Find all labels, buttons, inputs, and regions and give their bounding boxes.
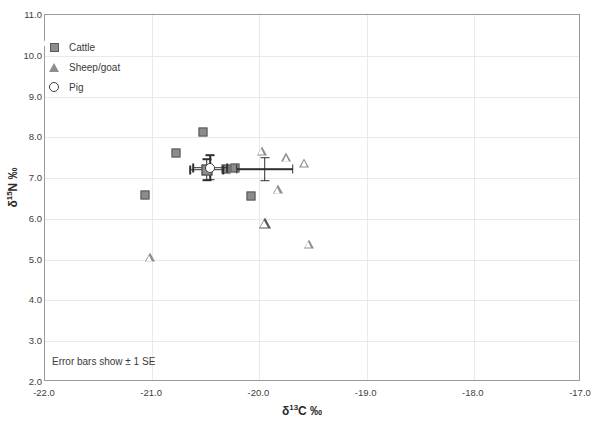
pig-errorbar-cap <box>206 179 215 181</box>
y-axis-tick-label: 2.0 <box>2 376 42 387</box>
open-circle-icon <box>46 82 62 92</box>
gridline-vertical <box>259 15 260 380</box>
filled-square-glyph <box>50 43 59 52</box>
legend-item-label: Pig <box>69 82 83 93</box>
gridline-vertical <box>474 15 475 380</box>
data-point-square <box>171 148 180 157</box>
sheep-goat-errorbar-cap <box>236 165 238 174</box>
gridline-vertical <box>367 15 368 380</box>
data-point-square <box>140 191 149 200</box>
legend-item-sheep-goat[interactable]: Sheep/goat <box>46 57 120 77</box>
x-axis-tick-label: -20.0 <box>248 387 270 398</box>
legend-item-pig[interactable]: Pig <box>46 77 120 97</box>
y-axis-tick-label: 5.0 <box>2 253 42 264</box>
data-point-triangle <box>299 158 309 167</box>
legend-item-label: Sheep/goat <box>69 62 120 73</box>
data-point-square <box>198 128 207 137</box>
x-axis-tick-label: -18.0 <box>462 387 484 398</box>
gridline-horizontal <box>45 97 579 98</box>
y-axis-tick-label: 8.0 <box>2 131 42 142</box>
gridline-horizontal <box>45 341 579 342</box>
y-axis-title: δ15N ‰ <box>5 143 20 233</box>
legend-item-label: Cattle <box>69 42 95 53</box>
y-axis-tick-label: 4.0 <box>2 294 42 305</box>
data-point-triangle <box>145 253 155 262</box>
data-point-square <box>246 191 255 200</box>
gridline-vertical <box>152 15 153 380</box>
x-axis-title: δ13C ‰ <box>0 403 604 418</box>
y-axis-element: N ‰ <box>6 167 20 191</box>
data-point-triangle <box>281 153 291 162</box>
scatter-chart: 2.03.04.05.06.07.08.09.010.011.0 -22.0-2… <box>0 0 604 429</box>
y-axis-tick-label: 10.0 <box>2 49 42 60</box>
y-axis-tick-label: 3.0 <box>2 335 42 346</box>
sheep-goat-errorbar-cap <box>260 180 269 182</box>
sheep-goat-errorbar-cap <box>292 165 294 174</box>
gridline-horizontal <box>45 56 579 57</box>
data-point-triangle <box>273 185 283 194</box>
x-axis-tick-label: -19.0 <box>355 387 377 398</box>
data-point-triangle <box>257 146 267 155</box>
x-axis-tick-label: -21.0 <box>140 387 162 398</box>
gridline-horizontal <box>45 178 579 179</box>
y-axis-delta: δ <box>6 200 20 207</box>
open-triangle-icon <box>46 63 62 72</box>
x-axis-superscript: 13 <box>289 403 298 412</box>
error-bars-layer <box>45 69 579 80</box>
sheep-goat-errorbar-cap <box>260 157 269 159</box>
pig-errorbar-cap <box>226 163 228 172</box>
pig-errorbar-cap <box>206 154 215 156</box>
x-axis-tick-label: -22.0 <box>33 387 55 398</box>
pig-errorbar-cap <box>192 163 194 172</box>
legend: CattleSheep/goatPig <box>46 37 120 97</box>
x-axis-tick-label: -17.0 <box>569 387 591 398</box>
open-circle-glyph <box>49 82 59 92</box>
gridline-horizontal <box>45 260 579 261</box>
gridline-horizontal <box>45 219 579 220</box>
cattle-errorbar-cap <box>189 165 191 174</box>
gridline-horizontal <box>45 300 579 301</box>
mean-marker-circle <box>205 163 215 173</box>
data-markers-layer <box>45 15 579 69</box>
open-triangle-glyph <box>49 63 59 72</box>
gridline-horizontal <box>45 137 579 138</box>
y-axis-tick-label: 11.0 <box>2 9 42 20</box>
x-axis-element: C ‰ <box>298 404 322 418</box>
x-axis-tick-labels: -22.0-21.0-20.0-19.0-18.0-17.0 <box>0 387 604 403</box>
error-bar-annotation: Error bars show ± 1 SE <box>52 356 155 367</box>
sheep-goat-errorbar-vertical <box>264 158 266 181</box>
y-axis-tick-label: 9.0 <box>2 90 42 101</box>
y-axis-superscript: 15 <box>5 191 14 200</box>
legend-item-cattle[interactable]: Cattle <box>46 37 120 57</box>
plot-area <box>44 14 580 381</box>
mean-marker-triangle <box>259 218 271 229</box>
data-point-triangle <box>304 239 314 248</box>
